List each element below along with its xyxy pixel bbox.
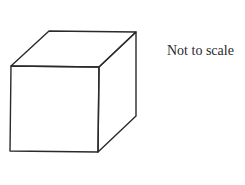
cube-diagram <box>0 0 245 185</box>
cube-right-face <box>98 32 136 152</box>
not-to-scale-label: Not to scale <box>167 43 234 59</box>
cube-front-face <box>10 66 99 152</box>
